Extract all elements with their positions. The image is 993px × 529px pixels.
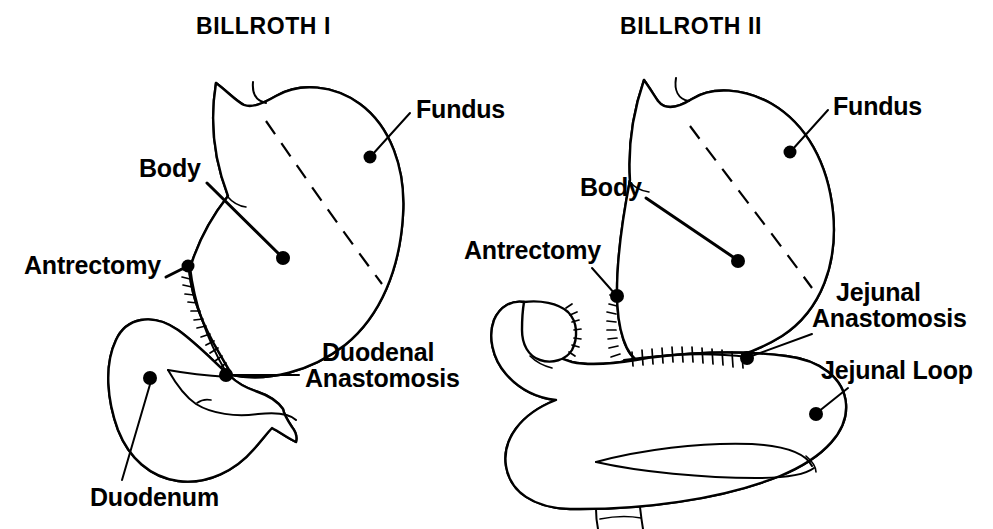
label-fundus-1: Fundus xyxy=(416,95,505,123)
leader-dot-antrectomy-1 xyxy=(182,260,195,273)
label-duodenal-anastomosis-line2: Anastomosis xyxy=(305,364,460,392)
duodenal-stump-2 xyxy=(522,301,576,361)
leader-dot-duodenum-1 xyxy=(143,371,157,385)
label-jejunal-loop-2: Jejunal Loop xyxy=(821,356,973,384)
leader-dot-jejunal-anastomosis-2 xyxy=(740,351,754,365)
label-antrectomy-1: Antrectomy xyxy=(24,251,161,279)
leader-dot-body-1 xyxy=(276,251,290,265)
leader-dot-antrectomy-2 xyxy=(610,289,624,303)
billroth-diagram-svg: BILLROTH I xyxy=(0,0,993,529)
leader-dot-fundus-1 xyxy=(364,151,377,164)
leader-dot-duodenal-anastomosis-1 xyxy=(219,368,233,382)
label-duodenum-1: Duodenum xyxy=(90,483,219,511)
leader-dot-body-2 xyxy=(731,254,745,268)
label-jejunal-anastomosis-line2: Anastomosis xyxy=(812,304,967,332)
label-fundus-2: Fundus xyxy=(833,92,922,120)
illustration-page: BILLROTH I xyxy=(0,0,993,529)
panel-title-billroth-2: BILLROTH II xyxy=(620,13,762,39)
label-body-1: Body xyxy=(139,154,201,182)
leader-dot-jejunal-loop-2 xyxy=(809,407,823,421)
panel-title-billroth-1: BILLROTH I xyxy=(196,13,331,39)
label-jejunal-anastomosis-line1: Jejunal xyxy=(836,278,921,306)
leader-dot-fundus-2 xyxy=(784,146,797,159)
label-body-2: Body xyxy=(580,173,642,201)
label-duodenal-anastomosis-line1: Duodenal xyxy=(322,338,434,366)
label-antrectomy-2: Antrectomy xyxy=(464,236,601,264)
